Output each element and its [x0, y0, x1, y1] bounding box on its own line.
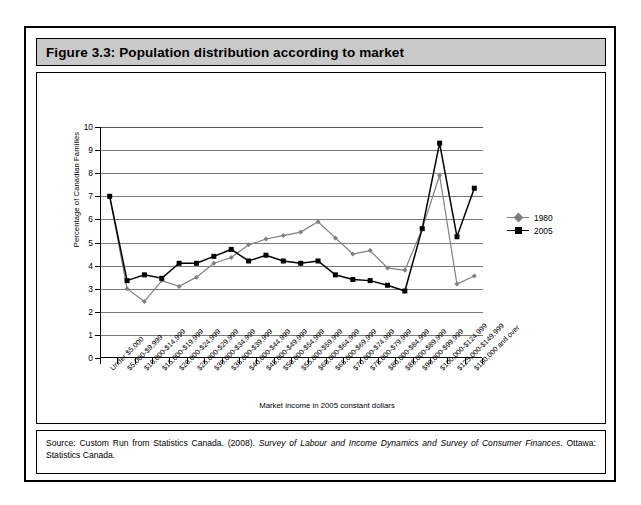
data-point-2005 [177, 261, 182, 266]
y-tick-label: 6 [67, 214, 93, 224]
data-point-2005 [159, 276, 164, 281]
data-point-2005 [281, 258, 286, 263]
source-prefix: Source: Custom Run from Statistics Canad… [46, 438, 259, 448]
data-point-2005 [298, 261, 303, 266]
data-point-2005 [316, 258, 321, 263]
y-tick-label: 0 [67, 353, 93, 363]
legend-label-2005: 2005 [534, 226, 553, 236]
data-point-1980 [437, 173, 442, 178]
data-point-2005 [229, 247, 234, 252]
plot-wrap: Percentage of Canadian Families 01234567… [37, 73, 607, 425]
data-point-2005 [350, 277, 355, 282]
source-note: Source: Custom Run from Statistics Canad… [46, 438, 596, 461]
plot-area [100, 127, 482, 358]
legend-item-1980: 1980 [507, 211, 593, 224]
y-tick-label: 1 [67, 330, 93, 340]
y-tick-label: 5 [67, 238, 93, 248]
data-point-1980 [263, 237, 268, 242]
source-italic-title: Survey of Labour and Income Dynamics and… [259, 438, 560, 448]
data-point-2005 [211, 254, 216, 259]
y-tick-label: 2 [67, 307, 93, 317]
data-point-1980 [402, 268, 407, 273]
data-point-2005 [385, 283, 390, 288]
legend-label-1980: 1980 [534, 213, 553, 223]
y-tick-label: 9 [67, 145, 93, 155]
data-point-1980 [472, 273, 477, 278]
data-point-2005 [368, 278, 373, 283]
series-line-2005 [110, 143, 475, 291]
figure-page: Figure 3.3: Population distribution acco… [0, 0, 641, 505]
x-axis-title: Market income in 2005 constant dollars [187, 401, 467, 410]
figure-frame: Figure 3.3: Population distribution acco… [24, 26, 616, 482]
data-point-2005 [194, 261, 199, 266]
data-point-2005 [420, 226, 425, 231]
legend-marker-diamond-icon [507, 212, 529, 223]
y-tick-label: 4 [67, 261, 93, 271]
figure-title-bar: Figure 3.3: Population distribution acco… [36, 38, 606, 66]
data-point-2005 [107, 194, 112, 199]
y-tick-label: 8 [67, 168, 93, 178]
legend-item-2005: 2005 [507, 224, 593, 237]
data-point-2005 [472, 186, 477, 191]
y-tick-label: 7 [67, 191, 93, 201]
data-point-2005 [263, 253, 268, 258]
data-point-2005 [333, 272, 338, 277]
chart-container: Percentage of Canadian Families 01234567… [36, 72, 606, 424]
source-note-box: Source: Custom Run from Statistics Canad… [36, 430, 606, 474]
data-point-1980 [454, 282, 459, 287]
data-point-1980 [281, 233, 286, 238]
x-tick-mark [100, 358, 101, 364]
series-plot [101, 127, 483, 358]
data-point-2005 [125, 278, 130, 283]
data-point-2005 [142, 272, 147, 277]
legend-marker-square-icon [507, 225, 529, 236]
data-point-2005 [246, 258, 251, 263]
data-point-1980 [177, 284, 182, 289]
page-title: Figure 3.3: Population distribution acco… [46, 45, 404, 60]
y-tick-label: 10 [67, 122, 93, 132]
y-tick-label: 3 [67, 284, 93, 294]
data-point-2005 [454, 234, 459, 239]
data-point-2005 [402, 289, 407, 294]
chart-legend: 1980 2005 [507, 211, 593, 237]
data-point-2005 [437, 141, 442, 146]
